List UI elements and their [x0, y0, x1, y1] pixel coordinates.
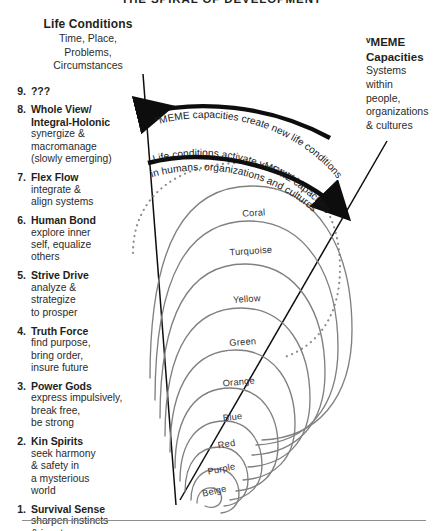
- level-description-line: strategize: [31, 294, 138, 306]
- spiral-ring-coral: [150, 186, 352, 440]
- vmeme-line-2: people,: [366, 92, 442, 106]
- level-description-line: insure future: [31, 362, 138, 374]
- level-name: ???: [31, 85, 138, 98]
- arc-lower-text-2: in humans, organizations and cultures: [149, 161, 319, 213]
- dotted-boundary: [133, 163, 340, 357]
- spiral-ring-yellow: [160, 264, 325, 455]
- level-name: Flex Flow: [31, 171, 138, 184]
- level-item-truth-force: 4.Truth Forcefind purpose,bring order,in…: [6, 325, 138, 375]
- vmeme-line-4: & cultures: [366, 119, 442, 133]
- level-description-line: align systems: [31, 196, 138, 208]
- level-description-line: synergize &: [31, 128, 138, 140]
- level-number: 7.: [6, 171, 31, 184]
- level-number: 1.: [6, 503, 31, 516]
- level-name: Survival Sense: [31, 503, 138, 516]
- spiral-label-orange: Orange: [222, 376, 255, 389]
- level-description-line: explore inner: [31, 227, 138, 239]
- level-number: 2.: [6, 435, 31, 448]
- vmeme-heading-text: MEME: [371, 36, 406, 48]
- spiral-ring-red: [180, 421, 262, 500]
- level-description-line: self, equalize: [31, 239, 138, 251]
- level-name: Whole View/: [31, 103, 138, 116]
- level-item-flex-flow: 7.Flex Flowintegrate &align systems: [6, 171, 138, 208]
- level-body: Flex Flowintegrate &align systems: [31, 171, 138, 208]
- level-name: Integral-Holonic: [31, 116, 138, 129]
- spiral-label-purple: Purple: [207, 461, 236, 476]
- life-conditions-heading: Life Conditions: [18, 17, 158, 32]
- spiral-of-development-diagram: THE SPIRAL OF DEVELOPMENT Life Condition…: [0, 0, 443, 531]
- level-body: Power Godsexpress impulsively,break free…: [31, 380, 138, 430]
- spiral-rings: [150, 186, 352, 513]
- level-description-line: express impulsively,: [31, 392, 138, 404]
- level-description-line: & safety in: [31, 460, 138, 472]
- spiral-label-beige: Beige: [201, 483, 227, 498]
- level-name: Truth Force: [31, 325, 138, 338]
- vmeme-line-3: organizations: [366, 105, 442, 119]
- level-description-line: bring order,: [31, 350, 138, 362]
- vmeme-heading-line-2: Capacities: [366, 50, 442, 65]
- level-description-line: a mysterious: [31, 473, 138, 485]
- level-number: 3.: [6, 380, 31, 393]
- spiral-tail: [197, 488, 222, 507]
- level-description-line: others: [31, 251, 138, 263]
- life-conditions-line-0: Time, Place,: [18, 32, 158, 46]
- arc-caption-upper: vMEME capacities create new life conditi…: [153, 109, 345, 180]
- level-description-line: to prosper: [31, 307, 138, 319]
- spiral-labels: Coral Turquoise Yellow Green Orange Blue…: [201, 207, 272, 499]
- spiral-label-green: Green: [229, 336, 256, 348]
- spiral-label-red: Red: [217, 438, 236, 451]
- page-title: THE SPIRAL OF DEVELOPMENT: [0, 0, 443, 5]
- arrow-vmeme-creates-conditions: [145, 106, 330, 138]
- level-body: Human Bondexplore innerself, equalizeoth…: [31, 214, 138, 264]
- level-description-line: (slowly emerging): [31, 153, 138, 165]
- spiral-ring-orange: [170, 350, 295, 480]
- level-item-power-gods: 3.Power Godsexpress impulsively,break fr…: [6, 380, 138, 430]
- spiral-ring-blue: [175, 388, 278, 491]
- level-item-kin-spirits: 2.Kin Spiritsseek harmony& safety ina my…: [6, 435, 138, 497]
- cone-line-right: [180, 141, 387, 500]
- level-description-line: macromanage: [31, 141, 138, 153]
- level-item-survival-sense: 1.Survival Sensesharpen instincts& innat…: [6, 503, 138, 531]
- level-number: 6.: [6, 214, 31, 227]
- life-conditions-line-2: Circumstances: [18, 59, 158, 73]
- spiral-label-blue: Blue: [222, 411, 242, 423]
- level-number: 8.: [6, 103, 31, 116]
- level-description-line: integrate &: [31, 184, 138, 196]
- level-description-line: analyze &: [31, 282, 138, 294]
- level-description-line: world: [31, 485, 138, 497]
- vmeme-capacities-block: vMEME Capacities Systems within people, …: [366, 34, 442, 132]
- arc-lower-text-1: Life conditions activate vMEME capacitie…: [151, 147, 333, 215]
- level-name: Human Bond: [31, 214, 138, 227]
- cone-line-left: [143, 74, 176, 505]
- level-description-line: sharpen instincts: [31, 515, 138, 527]
- level-item-whole-view: 8.Whole View/Integral-Holonicsynergize &…: [6, 103, 138, 165]
- levels-list: 9.???8.Whole View/Integral-Holonicsynerg…: [6, 85, 138, 531]
- spiral-label-turquoise: Turquoise: [229, 245, 272, 258]
- level-number: 9.: [6, 85, 31, 98]
- level-body: Truth Forcefind purpose,bring order,insu…: [31, 325, 138, 375]
- spiral-ring-green: [165, 308, 310, 467]
- level-description-line: break free,: [31, 405, 138, 417]
- level-name: Kin Spirits: [31, 435, 138, 448]
- vmeme-line-0: Systems: [366, 64, 442, 78]
- arc-caption-lower-2: in humans, organizations and cultures: [149, 161, 319, 213]
- arc-upper-text: MEME capacities create new life conditio…: [158, 109, 345, 180]
- spiral-ring-turquoise: [155, 221, 338, 445]
- arrow-conditions-activate-vmeme: [148, 157, 345, 215]
- life-conditions-line-1: Problems,: [18, 46, 158, 60]
- life-conditions-block: Life Conditions Time, Place, Problems, C…: [18, 17, 158, 73]
- level-description-line: be strong: [31, 417, 138, 429]
- level-number: 5.: [6, 269, 31, 282]
- bottom-divider: [22, 520, 426, 521]
- level-name: Strive Drive: [31, 269, 138, 282]
- level-item-: 9.???: [6, 85, 138, 98]
- level-number: 4.: [6, 325, 31, 338]
- arc-caption-lower-1: Life conditions activate vMEME capacitie…: [151, 147, 333, 215]
- spiral-ring-purple: [185, 447, 248, 506]
- level-item-strive-drive: 5.Strive Driveanalyze &strategizeto pros…: [6, 269, 138, 319]
- level-name: Power Gods: [31, 380, 138, 393]
- spiral-ring-beige: [191, 469, 239, 513]
- level-body: Kin Spiritsseek harmony& safety ina myst…: [31, 435, 138, 497]
- spiral-label-yellow: Yellow: [233, 293, 261, 305]
- level-body: Survival Sensesharpen instincts& innate …: [31, 503, 138, 531]
